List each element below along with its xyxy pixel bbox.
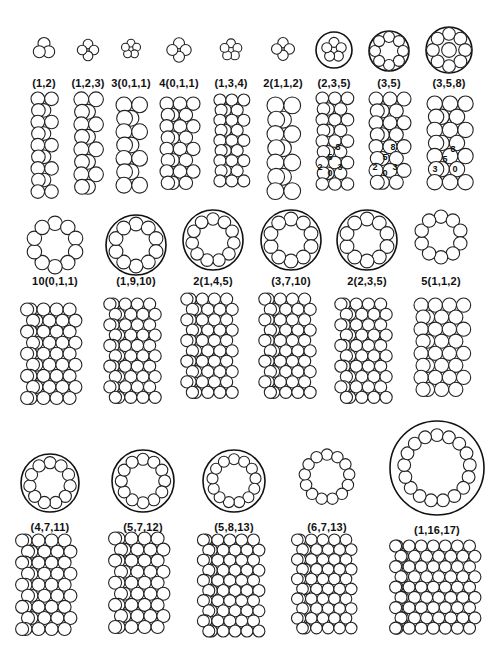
cross-section	[21, 454, 79, 512]
cross-section	[33, 38, 54, 58]
side-view-column	[31, 92, 58, 198]
cross-section	[203, 450, 265, 512]
cross-section	[220, 39, 242, 60]
side-view-column: 85230	[369, 92, 411, 189]
atom-index-label: 8	[390, 142, 395, 152]
structure-label: (5,8,13)	[214, 521, 254, 533]
atom-index-label: 5	[442, 154, 447, 164]
structure-label: (1,9,10)	[116, 275, 156, 287]
atom-index-label: 3	[432, 164, 437, 174]
cross-section	[316, 32, 352, 68]
atom-index-label: 2	[317, 162, 322, 172]
cross-section	[415, 210, 467, 264]
atom-index-label: 2	[372, 162, 377, 172]
side-view-column: 85230	[316, 92, 354, 190]
structure-label: (6,7,13)	[307, 521, 347, 533]
side-view-column	[197, 534, 265, 637]
side-view-column	[259, 293, 316, 398]
side-view-column	[160, 97, 200, 190]
cross-section	[272, 38, 295, 61]
side-view-column	[390, 540, 481, 634]
atom-index-label: 0	[382, 168, 387, 178]
side-view-column	[16, 534, 77, 636]
structure-label: 4(0,1,1)	[159, 77, 199, 89]
cross-section	[27, 216, 83, 274]
side-view-column	[181, 293, 238, 398]
side-view-column	[335, 298, 392, 403]
structure-label: (3,7,10)	[271, 275, 311, 287]
structure-label: (3,5)	[377, 77, 401, 89]
side-view-column: 8530	[427, 96, 473, 190]
atom-index-label: 3	[337, 162, 342, 172]
atom-index-label: 8	[335, 142, 340, 152]
structure-label: 3(0,1,1)	[111, 77, 151, 89]
structure-label: (4,7,11)	[31, 521, 70, 533]
side-view-column	[292, 534, 358, 634]
cross-section	[426, 27, 472, 73]
side-view-column	[116, 97, 148, 193]
atom-index-label: 8	[450, 144, 455, 154]
structure-label: (5,7,12)	[123, 521, 163, 533]
cross-section	[390, 421, 484, 515]
structure-label: (1,16,17)	[414, 524, 460, 536]
atom-index-label: 5	[327, 152, 332, 162]
cross-section	[337, 210, 397, 270]
cross-section	[183, 210, 243, 270]
structure-label: (1,2,3)	[71, 77, 104, 89]
cross-section	[77, 39, 98, 60]
structure-label: 10(0,1,1)	[32, 275, 78, 287]
cross-section	[369, 31, 409, 71]
side-view-column	[267, 97, 301, 200]
structure-label: (2,3,5)	[317, 77, 350, 89]
side-view-column	[74, 92, 104, 194]
side-view-column	[109, 532, 170, 634]
structure-drawings: 85230852308530	[0, 0, 504, 654]
atom-index-label: 0	[327, 168, 332, 178]
cross-section	[112, 450, 174, 512]
side-view-column	[214, 94, 250, 187]
structure-label: 2(1,1,2)	[263, 77, 303, 89]
structure-label: (3,5,8)	[432, 77, 465, 89]
cross-section	[122, 39, 141, 58]
cross-section	[261, 210, 321, 270]
structure-label: 5(1,1,2)	[421, 275, 461, 287]
cross-section	[106, 215, 166, 275]
cross-section	[299, 449, 355, 505]
atom-index-label: 3	[392, 162, 397, 172]
side-view-column	[104, 298, 161, 403]
side-view-column	[21, 303, 82, 405]
atom-index-label: 0	[452, 164, 457, 174]
atom-index-label: 5	[382, 152, 387, 162]
side-view-column	[414, 298, 471, 397]
nanowire-structures-figure: 85230852308530(1,2)(1,2,3)3(0,1,1)4(0,1,…	[0, 0, 504, 654]
structure-label: (1,3,4)	[214, 77, 247, 89]
structure-label: 2(2,3,5)	[347, 275, 387, 287]
cross-section	[167, 38, 191, 62]
structure-label: (1,2)	[32, 77, 56, 89]
structure-label: 2(1,4,5)	[193, 275, 233, 287]
